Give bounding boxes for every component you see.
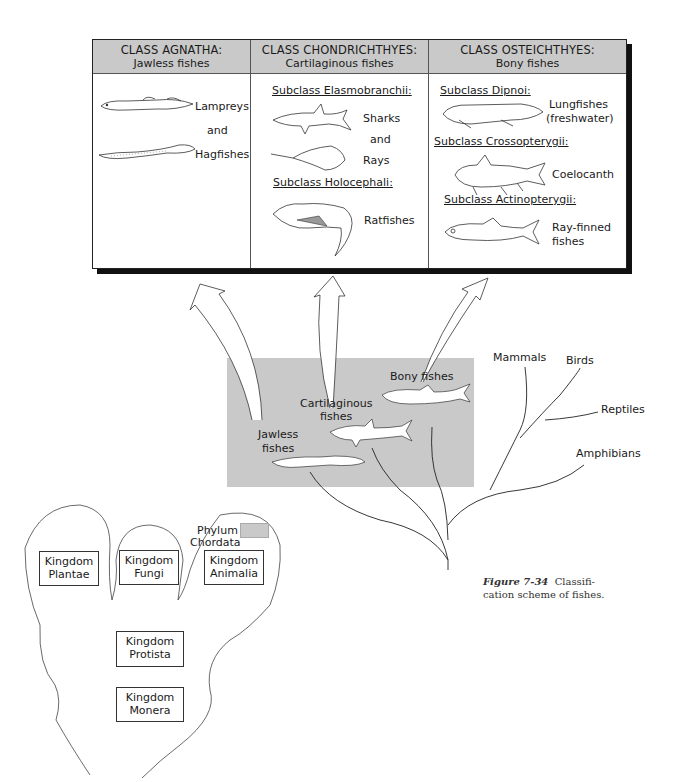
label-reptiles: Reptiles bbox=[601, 403, 645, 416]
label-mammals: Mammals bbox=[493, 351, 546, 364]
legend-swatch bbox=[240, 523, 269, 538]
kingdom-protista: Kingdom Protista bbox=[116, 631, 184, 667]
kingdom-fungi: Kingdom Fungi bbox=[119, 550, 179, 585]
label-birds: Birds bbox=[566, 354, 594, 367]
label-amphibians: Amphibians bbox=[576, 447, 641, 460]
kingdom-plantae: Kingdom Plantae bbox=[39, 551, 99, 586]
figure-caption: Figure 7-34 Classifi- cation scheme of f… bbox=[483, 575, 604, 601]
fish-tree-illustrations bbox=[0, 0, 680, 782]
legend-chordata: Chordata bbox=[190, 536, 241, 549]
kingdom-monera: Kingdom Monera bbox=[116, 687, 184, 722]
kingdom-animalia: Kingdom Animalia bbox=[204, 550, 264, 585]
